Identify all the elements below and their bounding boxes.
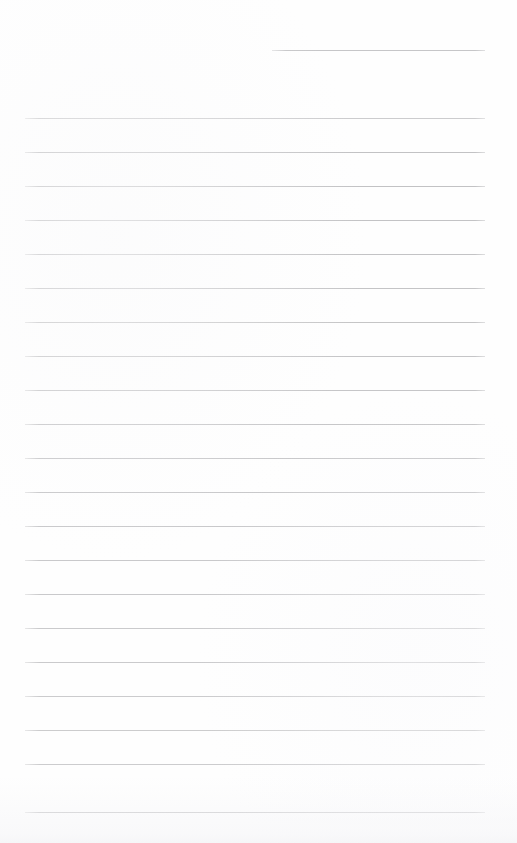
ruled-line [25, 458, 485, 459]
ruled-line [25, 288, 485, 289]
ruled-line [25, 220, 485, 221]
ruled-line [25, 118, 485, 119]
ruled-page [0, 0, 517, 843]
ruled-line [25, 764, 485, 765]
ruled-line [25, 424, 485, 425]
ruled-line [25, 560, 485, 561]
ruled-line [25, 356, 485, 357]
ruled-line [25, 594, 485, 595]
ruled-line [25, 186, 485, 187]
ruled-line [25, 526, 485, 527]
ruled-line [25, 812, 485, 813]
ruled-line [25, 254, 485, 255]
ruled-line [25, 492, 485, 493]
ruled-line [25, 390, 485, 391]
header-rule [272, 50, 485, 51]
ruled-line [25, 730, 485, 731]
ruled-line [25, 322, 485, 323]
ruled-lines-layer [0, 0, 517, 843]
ruled-line [25, 152, 485, 153]
ruled-line [25, 628, 485, 629]
ruled-line [25, 662, 485, 663]
ruled-line [25, 696, 485, 697]
